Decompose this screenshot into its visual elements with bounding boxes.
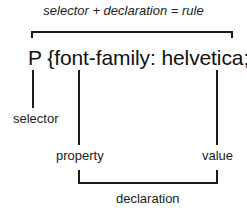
rule-bracket-right-tick [231, 31, 233, 38]
rule-bracket-top [31, 31, 233, 33]
property-label: property [56, 148, 104, 163]
css-rule-text: P {font-family: helvetica;} [28, 46, 247, 70]
declaration-bracket-bottom [78, 182, 218, 184]
value-pointer-line [216, 70, 218, 145]
declaration-label: declaration [116, 191, 180, 206]
selector-label: selector [13, 111, 59, 126]
rule-bracket-left-tick [31, 31, 33, 38]
selector-pointer-line [32, 70, 34, 108]
diagram-title: selector + declaration = rule [0, 3, 247, 18]
value-label: value [202, 148, 233, 163]
property-pointer-line [78, 70, 80, 145]
